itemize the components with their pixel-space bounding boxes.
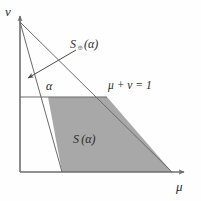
- nu-axis-label: ν: [5, 5, 11, 18]
- set-inner-arg: (α): [81, 132, 95, 146]
- constraint-label: μ + ν = 1: [108, 80, 152, 92]
- mu-axis-label: μ: [176, 180, 183, 193]
- diagram-svg: [0, 0, 201, 201]
- set-inner-label: S(α): [73, 133, 96, 147]
- set-outer-arg: (α): [84, 37, 98, 51]
- figure-canvas: ν μ S⊕(α) S(α) μ + ν = 1 α: [0, 0, 201, 201]
- shaded-region-S-alpha: [48, 97, 172, 172]
- set-outer-subscript: ⊕: [76, 44, 84, 52]
- set-outer-label: S⊕(α): [70, 38, 98, 52]
- alpha-label: α: [46, 80, 52, 92]
